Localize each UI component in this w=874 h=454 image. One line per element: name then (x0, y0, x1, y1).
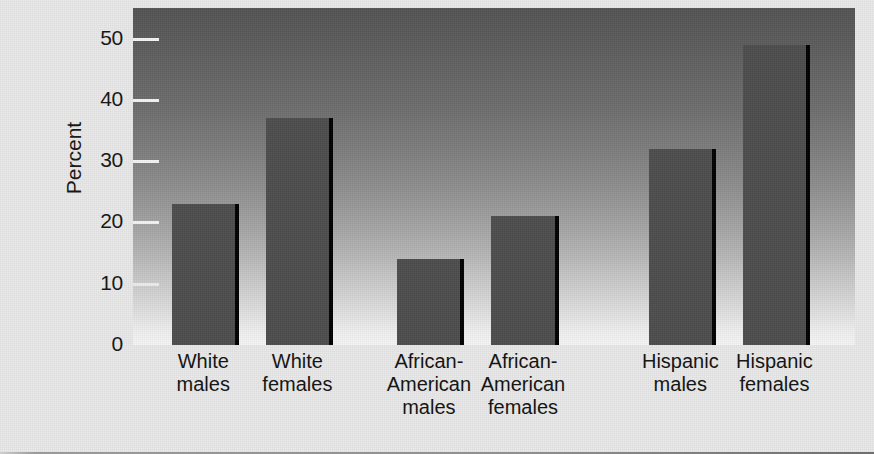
bar-0[interactable] (172, 204, 239, 345)
y-axis-label-10: 10 (81, 271, 123, 295)
bar-4[interactable] (649, 149, 716, 345)
y-axis-label-30: 30 (81, 148, 123, 172)
bar-5[interactable] (743, 45, 810, 345)
bar-1[interactable] (266, 118, 333, 345)
y-axis-title: Percent (62, 78, 86, 238)
y-axis-label-50: 50 (81, 26, 123, 50)
y-axis-label-20: 20 (81, 209, 123, 233)
y-axis-label-40: 40 (81, 87, 123, 111)
category-label-3: African- American females (443, 350, 603, 419)
y-axis-tick-10 (133, 283, 159, 286)
y-axis-tick-30 (133, 160, 159, 163)
category-label-5: Hispanic females (694, 350, 854, 396)
bar-2[interactable] (397, 259, 464, 345)
chart-figure: 50403020100 Percent White malesWhite fem… (0, 0, 874, 454)
plot-area (133, 8, 855, 345)
bar-3[interactable] (491, 216, 558, 345)
y-axis-tick-50 (133, 38, 159, 41)
y-axis-tick-20 (133, 221, 159, 224)
y-axis-label-0: 0 (81, 332, 123, 356)
y-axis-tick-40 (133, 99, 159, 102)
